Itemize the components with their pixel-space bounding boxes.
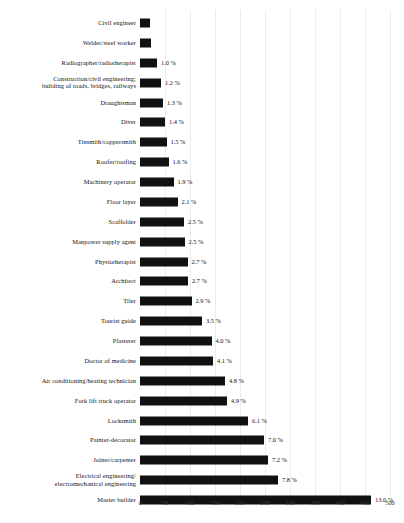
category-label: Welder/steel worker [4, 39, 140, 47]
bar-row: Tourist guide3.5 % [0, 311, 404, 331]
category-label: Plasterer [4, 337, 140, 345]
category-label: Scaffolder [4, 218, 140, 226]
bar-value-label: 2.1 % [178, 198, 197, 206]
category-label: Radiographer/radiotherapist [4, 59, 140, 67]
bar-value-label: 4.1 % [213, 357, 232, 365]
x-tick-label: 150 [210, 498, 220, 508]
x-tick-label: 0 [138, 498, 141, 508]
bar-row: Construction/civil engineering; building… [0, 73, 404, 93]
category-label: Painter-decorator [4, 437, 140, 445]
bar-row: Plasterer4.0 % [0, 331, 404, 351]
x-tick-label: 100 [185, 498, 195, 508]
bar [140, 337, 212, 346]
bar [140, 217, 184, 226]
bar-value-label: 4.8 % [225, 377, 244, 385]
category-label: Floor layer [4, 198, 140, 206]
bar [140, 277, 188, 286]
bar-row: Joiner/carpenter7.2 % [0, 450, 404, 470]
x-tick-label: 300 [285, 498, 295, 508]
x-tick-label: 350 [310, 498, 320, 508]
bar-row: Radiographer/radiotherapist1.0 % [0, 53, 404, 73]
x-tick-label: 450 [360, 498, 370, 508]
category-label: Tiler [4, 298, 140, 306]
category-label: Tourist guide [4, 317, 140, 325]
category-label: Fork lift truck operator [4, 397, 140, 405]
x-tick-label: 500 [385, 498, 395, 508]
category-label: Electrical engineering/ electromechanica… [4, 473, 140, 488]
bar-row: Fork lift truck operator4.9 % [0, 391, 404, 411]
plot-area: Civil engineerWelder/steel workerRadiogr… [0, 0, 404, 496]
bar-row: Architect2.7 % [0, 271, 404, 291]
x-tick-label: 250 [260, 498, 270, 508]
bar [140, 476, 278, 485]
category-label: Draughtsman [4, 99, 140, 107]
category-label: Construction/civil engineering; building… [4, 75, 140, 90]
horizontal-bar-chart: Civil engineerWelder/steel workerRadiogr… [0, 0, 404, 523]
bar-value-label: 2.7 % [188, 277, 207, 285]
bar-row: Air conditioning/heating technician4.8 % [0, 371, 404, 391]
bar [140, 138, 167, 147]
bar [140, 237, 185, 246]
category-label: Joiner/carpenter [4, 457, 140, 465]
category-label: Tinsmith/coppersmith [4, 138, 140, 146]
bar-row: Welder/steel worker [0, 33, 404, 53]
bar [140, 118, 165, 127]
category-label: Air conditioning/heating technician [4, 377, 140, 385]
bar-value-label: 2.5 % [185, 238, 204, 246]
category-label: Roofer/roofing [4, 158, 140, 166]
bar [140, 38, 151, 47]
bar [140, 396, 227, 405]
bar [140, 297, 192, 306]
category-label: Locksmith [4, 417, 140, 425]
bar-row: Doctor of medicine4.1 % [0, 351, 404, 371]
bar-row: Painter-decorator7.0 % [0, 430, 404, 450]
bar-row: Physiotherapist2.7 % [0, 252, 404, 272]
bar-value-label: 1.2 % [161, 79, 180, 87]
bar-value-label: 1.0 % [157, 59, 176, 67]
bar [140, 416, 248, 425]
category-label: Diver [4, 119, 140, 127]
bar [140, 376, 225, 385]
bar-row: Civil engineer [0, 13, 404, 33]
category-label: Civil engineer [4, 19, 140, 27]
bar [140, 356, 213, 365]
bar [140, 98, 163, 107]
bar [140, 197, 178, 206]
bar-row: Electrical engineering/ electromechanica… [0, 470, 404, 490]
bar-value-label: 3.5 % [202, 317, 221, 325]
category-label: Doctor of medicine [4, 357, 140, 365]
x-axis: 050100150200250300350400450500 [0, 498, 404, 514]
bar-row: Roofer/roofing1.6 % [0, 152, 404, 172]
x-tick-label: 400 [335, 498, 345, 508]
bar-value-label: 4.9 % [227, 397, 246, 405]
category-label: Manpower supply agent [4, 238, 140, 246]
bar-value-label: 7.0 % [264, 436, 283, 444]
bar-value-label: 4.0 % [212, 337, 231, 345]
bar [140, 158, 169, 167]
bar-row: Scaffolder2.5 % [0, 212, 404, 232]
bar-row: Locksmith6.1 % [0, 411, 404, 431]
bar-row: Floor layer2.1 % [0, 192, 404, 212]
bar [140, 257, 188, 266]
bar-row: Manpower supply agent2.5 % [0, 232, 404, 252]
bar-value-label: 1.5 % [167, 138, 186, 146]
bar-row: Tinsmith/coppersmith1.5 % [0, 132, 404, 152]
bar [140, 436, 264, 445]
bar-value-label: 1.9 % [174, 178, 193, 186]
bar-value-label: 6.1 % [248, 417, 267, 425]
bar-value-label: 1.4 % [165, 118, 184, 126]
bar [140, 19, 150, 28]
bar-row: Diver1.4 % [0, 112, 404, 132]
bar-value-label: 2.7 % [188, 258, 207, 266]
bar-value-label: 1.6 % [169, 158, 188, 166]
x-tick-label: 50 [162, 498, 168, 508]
category-label: Physiotherapist [4, 258, 140, 266]
bar-row: Machinery operator1.9 % [0, 172, 404, 192]
category-label: Architect [4, 278, 140, 286]
bar-value-label: 7.8 % [278, 476, 297, 484]
bar-value-label: 2.9 % [192, 297, 211, 305]
x-tick-label: 200 [235, 498, 245, 508]
bar-row: Draughtsman1.3 % [0, 93, 404, 113]
bar-value-label: 7.2 % [268, 456, 287, 464]
bar-value-label: 1.3 % [163, 99, 182, 107]
